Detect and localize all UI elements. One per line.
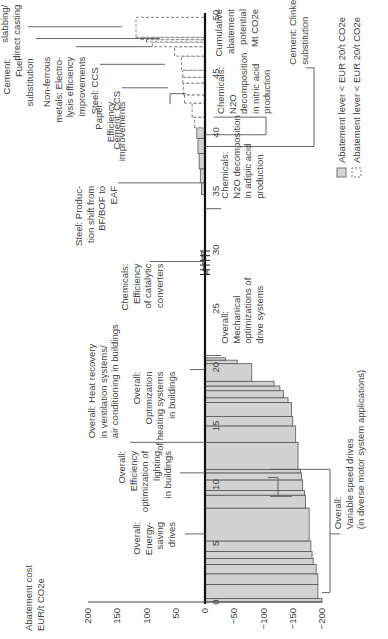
y-tick-label: 0 bbox=[199, 608, 210, 613]
bar-dashed bbox=[194, 117, 205, 128]
legend-solid-swatch bbox=[337, 168, 346, 177]
annotation-n2o-adipic: Chemicals:N2O decompositionin adipic aci… bbox=[219, 115, 265, 198]
y-tick-label: −200 bbox=[316, 608, 327, 629]
bar-solid bbox=[205, 584, 318, 598]
y-tick-label: 50 bbox=[170, 608, 181, 619]
bar-solid bbox=[205, 442, 298, 469]
legend-dashed-swatch bbox=[352, 168, 361, 177]
bar-solid bbox=[205, 508, 309, 541]
x-axis-title-line4: Mt CO2e bbox=[249, 9, 260, 47]
annotation-non-ferrous: Non-ferrousmetals: Electro-lysis efficie… bbox=[41, 56, 87, 122]
bar-solid bbox=[205, 559, 313, 565]
bar-dashed bbox=[152, 42, 205, 47]
bar-solid bbox=[205, 386, 280, 391]
annotation-thin-slabbing: slabbing/direct casting bbox=[0, 4, 22, 60]
abatement-cost-curve: 200150100500−50−100−150−2000510152025303… bbox=[0, 0, 388, 639]
legend-solid-label: Abatement lever < EUR 20/t CO2e bbox=[336, 17, 347, 163]
bar-solid bbox=[205, 381, 274, 386]
x-tick-label: 40 bbox=[210, 127, 221, 138]
bar-solid bbox=[205, 552, 312, 559]
annotation-heating-systems: Overall:Optimizationof heating systemsin… bbox=[131, 371, 177, 450]
x-tick-label: 10 bbox=[210, 479, 221, 490]
macc-chart-rotated: 200150100500−50−100−150−2000510152025303… bbox=[0, 0, 388, 639]
bar-dashed bbox=[183, 77, 205, 83]
bar-dashed bbox=[192, 103, 205, 117]
annotation-heat-recovery: Overall: Heat recoveryin ventilation sys… bbox=[86, 324, 120, 438]
legend: Abatement lever < EUR 20/t CO2e Abatemen… bbox=[336, 17, 362, 177]
bar-dashed bbox=[183, 70, 205, 77]
annotation-lighting: Overall:Efficiencyoptimization oflightin… bbox=[116, 451, 173, 513]
bar-dashed bbox=[136, 17, 205, 37]
y-tick-label: 150 bbox=[111, 608, 122, 624]
annotation-steel-eaf: Steel: Produc-tion shift fromBF/BOF toEA… bbox=[73, 186, 119, 246]
x-axis-title-line1: Cumulative bbox=[213, 9, 224, 57]
x-axis-title-line3: potential bbox=[237, 9, 248, 45]
y-tick-label: 100 bbox=[141, 608, 152, 624]
bar-solid bbox=[205, 495, 306, 508]
x-tick-label: 20 bbox=[210, 362, 221, 373]
bar-dashed bbox=[182, 56, 205, 70]
bar-dashed bbox=[175, 47, 205, 56]
bar-dashed bbox=[183, 83, 205, 95]
bar-solid bbox=[205, 391, 283, 398]
x-tick-label: 15 bbox=[210, 421, 221, 432]
y-tick-label: −100 bbox=[258, 608, 269, 629]
annotation-catalytic-converters: Chemicals:Efficiencyof catalyticconverte… bbox=[119, 263, 165, 310]
y-tick-label: 200 bbox=[82, 608, 93, 624]
legend-dashed-label: Abatement lever < EUR 20/t CO2e bbox=[351, 17, 362, 163]
bar-dashed bbox=[185, 95, 205, 103]
annotation-cement-ccs: Cement: CCS bbox=[111, 91, 122, 150]
bar-solid bbox=[205, 402, 292, 416]
bar-solid bbox=[205, 598, 322, 602]
annotation-variable-speed-drives: Overall:Variable speed drives(in diverse… bbox=[332, 370, 366, 529]
bar-solid bbox=[205, 469, 300, 473]
bar-solid bbox=[205, 564, 316, 573]
x-tick-label: 0 bbox=[210, 599, 221, 604]
x-tick-label: 5 bbox=[210, 541, 221, 546]
x-tick-label: 30 bbox=[210, 245, 221, 256]
x-axis-title-line2: abatement bbox=[225, 9, 236, 54]
annotation-cement-fuel: Cement:Fuelsubstitution bbox=[1, 58, 35, 106]
bar-solid bbox=[205, 490, 304, 495]
annotation-steel-ccs: Steel: CCS bbox=[89, 67, 100, 114]
bar-solid bbox=[205, 358, 225, 360]
y-axis-title-line2: EUR/t CO2e bbox=[35, 578, 46, 631]
annotation-energy-saving-drives: Overall:Energy-savingdrives bbox=[131, 522, 177, 556]
y-tick-label: −50 bbox=[228, 608, 239, 624]
annotation-clinker: Cement: Clinkersubstitution bbox=[287, 0, 310, 65]
annotation-mechanical-optimizations: Overall:Mechanicaloptimizations ofdrive … bbox=[219, 277, 265, 343]
bar-solid bbox=[205, 574, 318, 585]
y-axis-title-line1: Abatement cost bbox=[23, 565, 34, 631]
bar-solid bbox=[197, 128, 205, 139]
y-tick-label: −150 bbox=[287, 608, 298, 629]
bar-solid bbox=[205, 398, 288, 403]
annotation-n2o-nitric: Chemicals:N2Odecompositionin nitric acid… bbox=[215, 53, 272, 114]
